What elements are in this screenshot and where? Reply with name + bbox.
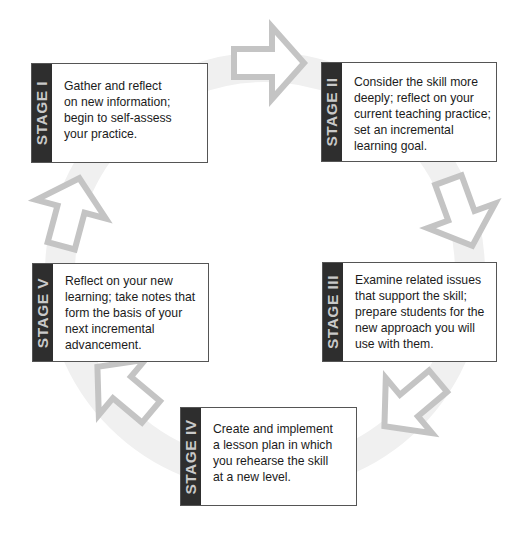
text-line: on new information; <box>64 94 172 110</box>
text-line: your practice. <box>64 126 172 142</box>
text-line: a lesson plan in which <box>213 437 333 453</box>
stage-4-tab: STAGE IV <box>181 408 201 505</box>
text-line: form the basis of your <box>65 305 195 321</box>
arrow-stage5-to-stage1-icon <box>26 169 114 255</box>
text-line: that support the skill; <box>355 288 484 304</box>
stage-3-box: STAGE III Examine related issues that su… <box>322 262 497 362</box>
stage-5-description: Reflect on your new learning; take notes… <box>53 264 203 361</box>
text-line: begin to self-assess <box>64 110 172 126</box>
stage-1-description: Gather and reflect on new information; b… <box>52 64 180 162</box>
text-line: deeply; reflect on your <box>354 90 491 106</box>
text-line: Gather and reflect <box>64 78 172 94</box>
text-line: learning goal. <box>354 138 491 154</box>
text-line: next incremental <box>65 321 195 337</box>
stage-4-description: Create and implement a lesson plan in wh… <box>201 408 341 505</box>
stage-1-box: STAGE I Gather and reflect on new inform… <box>31 63 208 163</box>
stage-2-tab: STAGE II <box>322 63 342 161</box>
text-line: learning; take notes that <box>65 289 195 305</box>
text-line: prepare students for the <box>355 304 484 320</box>
stage-2-label: STAGE II <box>323 77 341 146</box>
stage-5-tab: STAGE V <box>33 264 53 361</box>
text-line: set an incremental <box>354 122 491 138</box>
stage-1-label: STAGE I <box>33 81 51 145</box>
stage-4-label: STAGE IV <box>182 419 200 494</box>
text-line: Create and implement <box>213 421 333 437</box>
text-line: Examine related issues <box>355 272 484 288</box>
stage-1-tab: STAGE I <box>32 64 52 162</box>
stage-3-label: STAGE III <box>324 275 342 349</box>
arrow-stage1-to-stage2-icon <box>234 27 304 99</box>
text-line: current teaching practice; <box>354 106 491 122</box>
text-line: you rehearse the skill <box>213 453 333 469</box>
stage-2-box: STAGE II Consider the skill more deeply;… <box>321 62 497 162</box>
text-line: Reflect on your new <box>65 273 195 289</box>
text-line: new approach you will <box>355 320 484 336</box>
stage-5-label: STAGE V <box>34 277 52 347</box>
text-line: at a new level. <box>213 469 333 485</box>
stage-3-tab: STAGE III <box>323 263 343 361</box>
text-line: use with them. <box>355 336 484 352</box>
stage-2-description: Consider the skill more deeply; reflect … <box>342 63 499 161</box>
text-line: Consider the skill more <box>354 74 491 90</box>
stage-3-description: Examine related issues that support the … <box>343 263 492 361</box>
stage-4-box: STAGE IV Create and implement a lesson p… <box>180 407 357 506</box>
stage-5-box: STAGE V Reflect on your new learning; ta… <box>32 263 209 362</box>
text-line: advancement. <box>65 337 195 353</box>
